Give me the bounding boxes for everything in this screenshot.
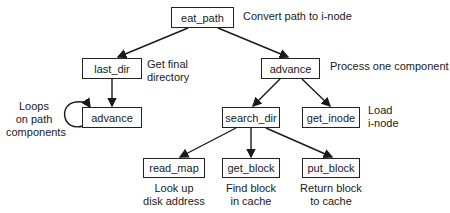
node-search_dir: search_dir <box>222 107 280 128</box>
node-put_block: put_block <box>302 158 360 178</box>
note-last_dir: Get final directory <box>147 58 189 84</box>
note-advance-loop: Loops on path components <box>6 100 62 139</box>
edge-eat_path-last_dir <box>118 28 188 57</box>
note-eat_path: Convert path to i-node <box>243 10 352 23</box>
note-put_block: Return block to cache <box>291 182 371 208</box>
node-get_inode: get_inode <box>302 107 360 128</box>
node-last_dir: last_dir <box>82 58 142 79</box>
node-advance-right: advance <box>261 58 320 79</box>
edge-advance-search_dir <box>253 79 280 106</box>
note-read_map: Look up disk address <box>134 182 214 208</box>
edge-advance-get_inode <box>302 79 330 106</box>
node-advance-left: advance <box>82 107 142 128</box>
edge-search_dir-read_map <box>180 128 236 157</box>
node-read_map: read_map <box>143 158 205 178</box>
note-advance-right: Process one component <box>330 60 449 73</box>
edge-eat_path-advance <box>218 28 288 57</box>
node-eat_path: eat_path <box>171 7 234 28</box>
note-get_inode: Load i-node <box>368 104 399 130</box>
edge-search_dir-put_block <box>266 128 332 157</box>
node-get_block: get_block <box>222 158 280 178</box>
note-get_block: Find block in cache <box>211 182 291 208</box>
